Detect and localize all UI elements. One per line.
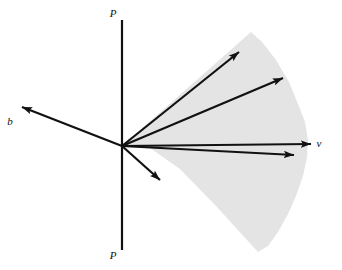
axis-label-top-P: P bbox=[109, 7, 117, 19]
vector-lower-diagonal-arrow bbox=[122, 146, 160, 180]
vector-label-b: b bbox=[7, 115, 13, 127]
shaded-cone-region bbox=[122, 32, 308, 252]
vector-label-v: v bbox=[317, 137, 322, 149]
vector-cone-diagram: P P b v bbox=[0, 0, 342, 270]
figure-container: P P b v bbox=[0, 0, 342, 270]
axis-label-bottom-P: P bbox=[109, 249, 117, 261]
vector-b-arrow bbox=[22, 107, 122, 146]
